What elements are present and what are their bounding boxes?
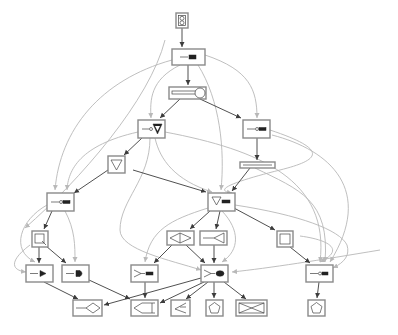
node-line-fork[interactable]	[200, 231, 227, 245]
node-wire-gate-1[interactable]	[26, 265, 53, 282]
node-two-circles[interactable]	[176, 13, 188, 28]
node-bowtie-cross[interactable]	[236, 300, 267, 316]
node-triangle-fork[interactable]	[171, 300, 190, 316]
node-triangle-component-2[interactable]	[131, 265, 158, 282]
node-bar-circle[interactable]	[169, 87, 206, 99]
graph-canvas	[0, 0, 398, 335]
node-triangle-blob[interactable]	[201, 265, 228, 282]
node-pentagon-1[interactable]	[206, 300, 223, 316]
node-inverted-triangle[interactable]	[108, 156, 125, 173]
node-diamond-cross[interactable]	[167, 231, 194, 245]
node-wire-component-4[interactable]	[306, 265, 333, 282]
node-pentagon-2[interactable]	[308, 300, 325, 316]
nodes	[26, 13, 333, 316]
node-square-outline[interactable]	[277, 231, 293, 247]
node-arrow-rectangle[interactable]	[131, 300, 158, 316]
node-wire-component-3[interactable]	[47, 193, 74, 211]
node-wire-component-2[interactable]	[243, 120, 270, 138]
node-filled-triangle[interactable]	[138, 120, 165, 138]
node-line-diamond[interactable]	[73, 300, 102, 316]
node-square-arrow[interactable]	[32, 231, 48, 247]
node-wire-component-1[interactable]	[172, 49, 205, 65]
secondary-edges	[14, 40, 380, 272]
node-triangle-component-1[interactable]	[208, 193, 235, 211]
node-wire-gate-2[interactable]	[62, 265, 89, 282]
node-long-bar[interactable]	[240, 162, 275, 168]
